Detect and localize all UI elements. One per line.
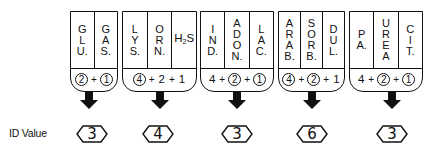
test-column: DUL.: [323, 12, 344, 68]
plus-sign: +: [219, 74, 225, 85]
id-value-label: ID Value: [9, 127, 47, 139]
test-column: ARAB.: [279, 12, 301, 68]
plus-sign: +: [298, 74, 304, 85]
down-arrow-icon: [80, 92, 98, 110]
test-label-char: N.: [154, 46, 165, 57]
test-column: LYS.: [123, 12, 148, 68]
circled-score: 1: [100, 73, 113, 86]
circled-score: 1: [402, 73, 415, 86]
test-label-char: A: [102, 35, 109, 46]
test-group: LYS.ORN.H2S4+2+1: [122, 11, 197, 92]
score-formula: 4+2+1: [201, 68, 273, 90]
score: 4: [208, 73, 216, 85]
test-group: IND.ADON.LAC.4+2+1: [200, 11, 274, 92]
test-label-char: L: [132, 24, 138, 35]
test-columns: GLU.GAS.: [71, 12, 117, 69]
circled-score: 2: [377, 73, 390, 86]
test-label-char: D: [330, 24, 338, 35]
down-arrow-icon: [303, 92, 321, 110]
test-label-char: N: [209, 35, 217, 46]
test-label-char: B.: [306, 51, 316, 62]
test-column: GLU.: [71, 12, 95, 68]
test-label-char: L.: [329, 46, 338, 57]
circled-score: 4: [282, 73, 295, 86]
test-group: ARAB.SORB.DUL.4+2+1: [278, 11, 345, 92]
circled-score: 2: [228, 73, 241, 86]
test-group: PA.UREACIT.4+2+1: [349, 11, 423, 92]
test-columns: IND.ADON.LAC.: [201, 12, 273, 69]
test-label-char: B.: [284, 51, 294, 62]
id-value-hexagon: 3: [221, 125, 253, 143]
score-formula: 4+2+1: [279, 68, 344, 90]
test-column: H2S: [172, 12, 196, 68]
down-arrow-icon: [151, 92, 169, 110]
test-column: UREA: [374, 12, 398, 68]
test-columns: ARAB.SORB.DUL.: [279, 12, 344, 69]
test-label-char: C.: [256, 46, 267, 57]
test-label-char: A: [382, 51, 389, 62]
id-value-hexagon: 6: [296, 125, 328, 143]
id-value-hexagon: 3: [376, 125, 408, 143]
test-label-char: C: [406, 24, 414, 35]
down-arrow-icon: [383, 92, 401, 110]
test-label-char: R: [156, 35, 164, 46]
test-label-char: A: [258, 35, 265, 46]
score: 2: [158, 73, 166, 85]
test-columns: PA.UREACIT.: [350, 12, 422, 69]
test-label: H2S: [174, 33, 194, 47]
plus-sign: +: [244, 74, 250, 85]
test-column: LAC.: [250, 12, 273, 68]
id-value: 3: [76, 125, 108, 143]
score-formula: 4+2+1: [350, 68, 422, 90]
test-column: IND.: [201, 12, 225, 68]
test-label-char: A.: [356, 40, 366, 51]
test-label-char: I: [409, 35, 412, 46]
test-column: ORN.: [148, 12, 173, 68]
score-formula: 4+2+1: [123, 68, 196, 90]
score: 1: [178, 73, 186, 85]
id-value: 6: [296, 125, 328, 143]
id-value: 4: [142, 125, 174, 143]
test-column: CIT.: [399, 12, 422, 68]
circled-score: 2: [75, 73, 88, 86]
down-arrow-icon: [228, 92, 246, 110]
test-columns: LYS.ORN.H2S: [123, 12, 196, 69]
test-column: PA.: [350, 12, 374, 68]
plus-sign: +: [368, 74, 374, 85]
test-group: GLU.GAS.2+1: [70, 11, 118, 92]
test-column: ADON.: [225, 12, 249, 68]
test-label-char: N.: [231, 51, 242, 62]
test-label-char: D.: [207, 46, 218, 57]
test-label-char: S.: [130, 46, 140, 57]
score: 1: [332, 73, 340, 85]
test-label-char: L: [258, 24, 264, 35]
id-value-hexagon: 3: [76, 125, 108, 143]
score: 4: [357, 73, 365, 85]
plus-sign: +: [169, 74, 175, 85]
id-value: 3: [376, 125, 408, 143]
plus-sign: +: [149, 74, 155, 85]
test-label-char: Y: [131, 35, 138, 46]
circled-score: 1: [253, 73, 266, 86]
score-formula: 2+1: [71, 68, 117, 90]
circled-score: 2: [307, 73, 320, 86]
plus-sign: +: [91, 74, 97, 85]
test-label-char: U.: [77, 46, 88, 57]
test-label-char: G: [101, 24, 110, 35]
test-label-char: I: [211, 24, 214, 35]
plus-sign: +: [393, 74, 399, 85]
test-column: GAS.: [95, 12, 118, 68]
test-label-char: S.: [101, 46, 111, 57]
id-value-hexagon: 4: [142, 125, 174, 143]
id-value: 3: [221, 125, 253, 143]
circled-score: 4: [133, 73, 146, 86]
test-column: SORB.: [301, 12, 323, 68]
test-label-char: T.: [406, 46, 415, 57]
test-label-char: O: [155, 24, 164, 35]
test-label-char: L: [79, 35, 85, 46]
test-label-char: G: [78, 24, 87, 35]
plus-sign: +: [323, 74, 329, 85]
test-label-char: U: [330, 35, 338, 46]
